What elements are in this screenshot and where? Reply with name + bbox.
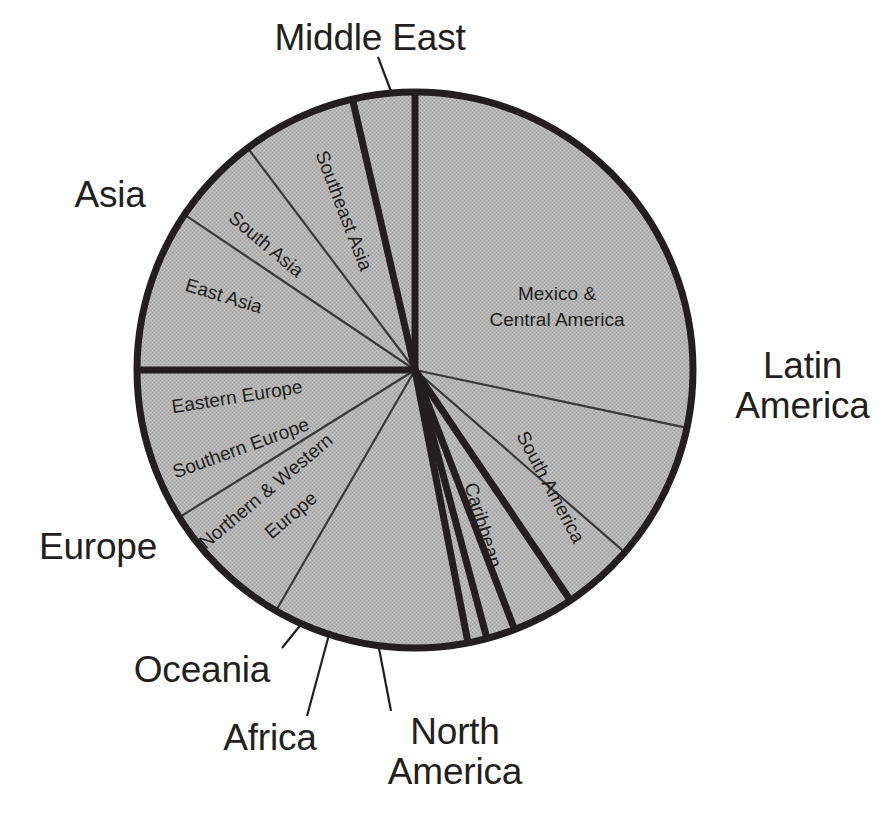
- outer-label-oceania: Oceania: [112, 650, 292, 690]
- outer-label-europe: Europe: [18, 527, 178, 567]
- pie-slice[interactable]: [415, 92, 693, 428]
- outer-label-middle-east: Middle East: [255, 18, 485, 58]
- slice-label-mexico-central-america-line2: Central America: [489, 309, 625, 330]
- outer-label-latin-america: Latin America: [720, 346, 885, 426]
- outer-label-asia: Asia: [50, 175, 170, 215]
- slice-label-mexico-central-america-line1: Mexico &: [518, 283, 596, 304]
- outer-label-africa: Africa: [200, 718, 340, 758]
- outer-label-north-america: North America: [340, 712, 570, 792]
- pie-chart-figure: Southeast Asia South Asia East Asia East…: [0, 0, 888, 828]
- leader-line-africa: [307, 631, 330, 716]
- leader-line-oceania: [282, 622, 303, 648]
- leader-line-north-america: [378, 643, 391, 711]
- leader-line-middle-east: [378, 57, 392, 94]
